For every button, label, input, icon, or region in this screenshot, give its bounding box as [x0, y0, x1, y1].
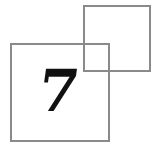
number-label-container: 7	[10, 43, 110, 142]
number-label: 7	[34, 62, 83, 120]
